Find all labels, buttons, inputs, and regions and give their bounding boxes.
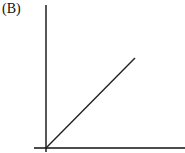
line-chart <box>0 0 185 153</box>
data-line <box>46 58 135 148</box>
